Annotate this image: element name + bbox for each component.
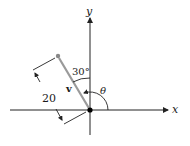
y-axis-label: y	[85, 5, 93, 18]
angle-30-label: 30°	[72, 66, 90, 77]
x-axis-label: x	[172, 103, 179, 116]
vector-v	[56, 54, 90, 110]
theta-label: θ	[100, 85, 106, 96]
vector-tip-dot	[56, 54, 60, 58]
magnitude-label: 20	[42, 92, 56, 105]
angle-30-arc	[73, 78, 90, 82]
origin-dot	[87, 107, 92, 112]
vector-label: v	[65, 83, 73, 94]
vector-diagram: x y v 20 30° θ	[0, 0, 190, 146]
